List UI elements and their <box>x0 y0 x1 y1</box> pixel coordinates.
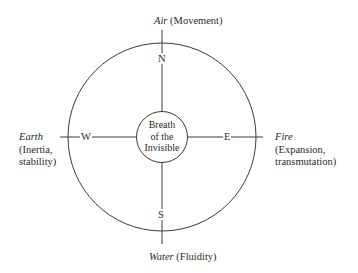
center-label: Breath of the Invisible <box>137 119 187 154</box>
element-label-air: Air (Movement) <box>154 15 223 28</box>
element-quality-earth-line-2: stability) <box>19 156 56 169</box>
element-quality-air: (Movement) <box>170 15 223 26</box>
element-label-earth: Earth (Inertia, stability) <box>19 131 56 169</box>
element-label-fire: Fire (Expansion, transmutation) <box>275 131 336 169</box>
element-name-air: Air <box>154 15 167 26</box>
direction-west: W <box>80 131 92 142</box>
direction-east: E <box>223 131 231 142</box>
center-label-line-1: Breath <box>137 119 187 131</box>
center-label-line-3: Invisible <box>137 142 187 154</box>
element-quality-water: (Fluidity) <box>176 251 216 262</box>
element-quality-earth-line-1: (Inertia, <box>19 144 56 157</box>
center-label-line-2: of the <box>137 131 187 143</box>
element-name-fire: Fire <box>275 131 336 144</box>
element-quality-fire-line-1: (Expansion, <box>275 144 336 157</box>
element-label-water: Water (Fluidity) <box>149 251 217 264</box>
direction-north: N <box>157 53 167 64</box>
direction-south: S <box>157 209 165 220</box>
element-name-water: Water <box>149 251 174 262</box>
element-name-earth: Earth <box>19 131 56 144</box>
element-quality-fire-line-2: transmutation) <box>275 156 336 169</box>
